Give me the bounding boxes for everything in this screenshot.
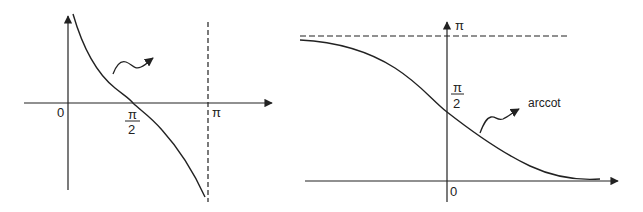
left-half-pi-numerator: π bbox=[128, 107, 137, 122]
right-plot: π π 2 arccot 0 bbox=[300, 18, 618, 202]
left-half-pi-denominator: 2 bbox=[128, 122, 135, 137]
arccot-label: arccot bbox=[528, 96, 561, 110]
left-pi-label: π bbox=[212, 105, 221, 120]
right-half-pi-denominator: 2 bbox=[453, 96, 460, 111]
diagram-svg: 0 π 2 π π π 2 arccot 0 bbox=[0, 0, 643, 212]
right-pi-label: π bbox=[455, 18, 464, 33]
cot-curve bbox=[73, 14, 205, 197]
right-half-pi-numerator: π bbox=[453, 80, 462, 95]
right-squiggle-arrow-icon bbox=[480, 109, 519, 133]
left-squiggle-arrow-icon bbox=[113, 58, 153, 74]
left-origin-label: 0 bbox=[57, 105, 64, 120]
right-origin-label: 0 bbox=[450, 184, 457, 199]
left-plot: 0 π 2 π bbox=[24, 14, 272, 202]
diagram-canvas: 0 π 2 π π π 2 arccot 0 bbox=[0, 0, 643, 212]
